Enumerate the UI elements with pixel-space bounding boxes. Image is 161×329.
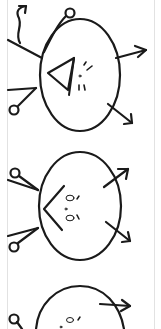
dot-icon [60, 326, 62, 328]
eye-icon [66, 215, 74, 221]
eye-icon [66, 195, 74, 201]
sketch-canvas [0, 0, 161, 329]
head-outline-icon [39, 152, 121, 260]
head-outline-icon [36, 286, 124, 329]
up-right-arrow-icon [104, 169, 128, 187]
antenna-tip-icon [11, 169, 20, 178]
down-right-arrow-icon [108, 104, 132, 123]
antenna-tip-icon [66, 9, 75, 18]
right-arrow-icon [100, 304, 130, 306]
antenna-icon [44, 16, 66, 52]
image-list-panel [0, 0, 161, 329]
antenna-tip-icon [10, 243, 19, 252]
upper-left-stroke-icon [8, 180, 38, 190]
sketch-1-face[interactable] [8, 6, 146, 131]
antenna-tip-icon [10, 106, 19, 115]
dot-icon [65, 208, 67, 210]
dot-icon [79, 75, 81, 77]
sketch-2-face[interactable] [8, 152, 130, 260]
sketch-3-face[interactable] [10, 286, 131, 329]
whisker-icon [84, 62, 86, 65]
left-stroke-icon [8, 40, 42, 58]
chevron-mouth-icon [44, 186, 64, 230]
eye-icon [67, 318, 74, 323]
lower-left-stroke-icon [8, 88, 36, 90]
